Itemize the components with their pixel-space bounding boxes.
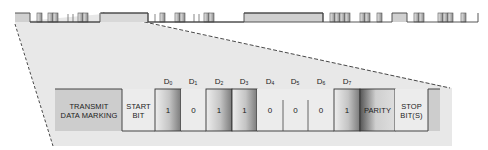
transmit-marking-label: TRANSMIT DATA MARKING	[56, 102, 122, 120]
bit-name-d7: D7	[337, 77, 357, 86]
bit-name-d2: D2	[209, 77, 229, 86]
start-bit-line2: BIT	[122, 111, 155, 120]
start-bit-label: START BIT	[122, 102, 155, 120]
bit-value-d0: 1	[155, 106, 181, 115]
stop-bits-label: STOP BIT(S)	[395, 102, 428, 120]
bit-name-d3: D3	[234, 77, 254, 86]
parity-label: PARITY	[360, 106, 395, 115]
bit-value-d5: 0	[283, 106, 308, 115]
bit-value-d1: 0	[181, 106, 206, 115]
bit-value-d4: 0	[257, 106, 283, 115]
diagram-canvas	[0, 0, 488, 150]
start-bit-line1: START	[122, 102, 155, 111]
bit-name-d0: D0	[158, 77, 178, 86]
bit-value-d6: 0	[308, 106, 334, 115]
bit-value-d3: 1	[232, 106, 257, 115]
bit-name-d5: D5	[285, 77, 305, 86]
transmit-marking-line1: TRANSMIT	[56, 102, 122, 111]
stop-bits-line2: BIT(S)	[395, 111, 428, 120]
serial-frame-diagram: TRANSMIT DATA MARKING START BIT D0 D1 D2…	[0, 0, 488, 150]
bit-value-d7: 1	[334, 106, 360, 115]
bit-name-d6: D6	[311, 77, 331, 86]
bit-name-d4: D4	[260, 77, 280, 86]
bit-value-d2: 1	[206, 106, 232, 115]
bit-name-d1: D1	[183, 77, 203, 86]
overview-waveform	[15, 13, 478, 22]
idle-region	[428, 89, 440, 131]
stop-bits-line1: STOP	[395, 102, 428, 111]
transmit-marking-line2: DATA MARKING	[56, 111, 122, 120]
